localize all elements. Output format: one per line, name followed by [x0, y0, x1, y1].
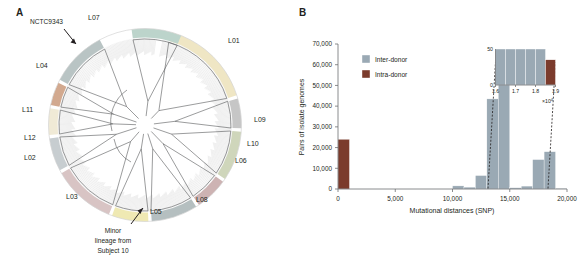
inset-exponent-base: ×10 [542, 98, 551, 104]
minor-lineage-line-1: Minor [105, 227, 122, 234]
lineage-label-l12: L12 [24, 134, 36, 141]
inset-bar [506, 49, 516, 85]
lineage-label-l07: L07 [88, 14, 100, 21]
x-tick-label: 5,000 [387, 195, 403, 202]
annotation-nctc9343: NCTC9343 [30, 18, 76, 44]
lineage-label-group: L01L02L03L04L05L06L07L08L09L10L11L12 [22, 14, 266, 215]
inset-bar [516, 49, 526, 85]
legend-swatch-inter-donor [362, 55, 370, 63]
y-tick-label: 40,000 [312, 102, 332, 109]
lineage-label-l05: L05 [150, 208, 162, 215]
lineage-arc-l02 [54, 138, 64, 168]
lineage-label-l11: L11 [22, 106, 33, 113]
inset-bar [546, 60, 556, 85]
y-axis-title: Pairs of isolate genomes [298, 78, 306, 155]
nctc9343-arrow-head [71, 39, 77, 45]
x-tick-label: 20,000 [557, 195, 577, 202]
y-tick-label: 20,000 [312, 144, 332, 151]
lineage-label-l06: L06 [235, 157, 247, 164]
histogram-svg: 05,00010,00015,00020,000 010,00020,00030… [290, 0, 578, 262]
histogram-bar [533, 160, 544, 189]
chart-legend: Inter-donorIntra-donor [362, 55, 408, 78]
lineage-label-l01: L01 [228, 37, 240, 44]
y-tick-label: 10,000 [312, 165, 332, 172]
lineage-label-l02: L02 [24, 154, 36, 161]
y-axis-ticks: 010,00020,00030,00040,00050,00060,00070,… [312, 40, 338, 192]
inset-x-tick-label: 1.7 [512, 88, 519, 94]
inset-ytick-top: 50 [487, 46, 493, 52]
histogram-bar [521, 186, 532, 189]
lineage-label-l03: L03 [66, 193, 78, 200]
lineage-label-l09: L09 [254, 116, 266, 123]
y-tick-label: 60,000 [312, 61, 332, 68]
inset-x-tick-label: 1.8 [532, 88, 539, 94]
x-tick-label: 0 [336, 195, 340, 202]
legend-swatch-intra-donor [362, 70, 370, 78]
legend-label-intra-donor: Intra-donor [375, 71, 408, 78]
lineage-label-l10: L10 [247, 140, 259, 147]
histogram-bar [544, 152, 555, 189]
minor-lineage-line-2: lineage from [95, 237, 132, 245]
lineage-arc-l03 [65, 171, 110, 210]
tree-clade-10 [61, 87, 137, 122]
panel-a-phylogenetic-tree: L01L02L03L04L05L06L07L08L09L10L11L12 NCT… [0, 0, 290, 262]
lineage-label-l04: L04 [36, 62, 48, 69]
y-tick-label: 0 [328, 185, 332, 192]
tree-clade-2 [154, 101, 231, 128]
inset-bar [526, 49, 536, 85]
y-tick-label: 30,000 [312, 123, 332, 130]
inset-bar [496, 49, 506, 85]
x-axis-ticks: 05,00010,00015,00020,000 [336, 189, 577, 202]
inset-exponent-label: ×104 [542, 97, 554, 104]
tree-clade-12 [133, 39, 177, 116]
lineage-arc-l05 [114, 211, 149, 217]
lineage-arc-l04 [64, 44, 102, 82]
x-tick-label: 15,000 [500, 195, 520, 202]
x-axis-title: Mutational distances (SNP) [410, 207, 495, 215]
tree-clade-3 [154, 128, 231, 173]
circular-tree-svg: L01L02L03L04L05L06L07L08L09L10L11L12 NCT… [0, 0, 290, 262]
inset-bar [536, 49, 546, 85]
histogram-bar [338, 139, 349, 189]
inset-x-tick-label: 1.9 [552, 88, 559, 94]
inset-x-tick-label: 1.6 [492, 88, 499, 94]
x-tick-label: 10,000 [443, 195, 463, 202]
minor-lineage-line-3: Subject 10 [97, 247, 128, 255]
y-tick-label: 70,000 [312, 40, 332, 47]
y-tick-label: 50,000 [312, 82, 332, 89]
legend-label-inter-donor: Inter-donor [375, 56, 408, 63]
panel-b-histogram: 05,00010,00015,00020,000 010,00020,00030… [290, 0, 578, 262]
histogram-bar [453, 186, 464, 189]
histogram-bar [475, 176, 486, 189]
lineage-arc-l09 [233, 100, 237, 129]
lineage-label-l08: L08 [196, 196, 208, 203]
lineage-arc-l11 [53, 109, 54, 135]
lineage-ring [53, 33, 237, 217]
nctc9343-label: NCTC9343 [30, 18, 63, 25]
figure-root: A B L01L02L03L04L05L06L07L08L09L10L11L12… [0, 0, 578, 262]
